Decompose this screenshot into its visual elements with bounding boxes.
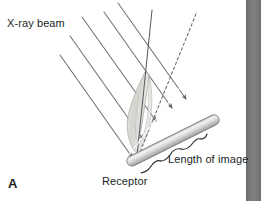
label-receptor: Receptor	[102, 175, 147, 187]
scan-edge-artifact	[246, 0, 261, 201]
xray-beam-group	[60, 3, 186, 157]
xray-projection-figure: X-ray beam Receptor Length of image A	[0, 0, 261, 201]
label-xray-beam: X-ray beam	[7, 17, 65, 29]
figure-illustration	[0, 0, 261, 201]
beam-line-1	[60, 55, 132, 157]
label-length-of-image: Length of image	[168, 153, 248, 165]
bracket-apex-tick	[201, 134, 207, 139]
panel-label: A	[8, 178, 18, 190]
beam-line-5	[118, 3, 186, 99]
